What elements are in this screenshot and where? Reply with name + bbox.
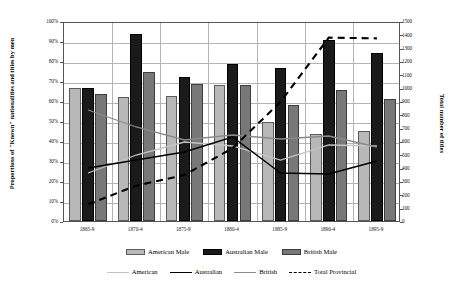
legend-swatch-total-icon bbox=[289, 269, 311, 275]
legend-label: American Male bbox=[148, 248, 189, 255]
y-axis-right-tick-label: 1100 bbox=[402, 73, 432, 78]
chart-container: Proportions of "Known" nationalities and… bbox=[0, 0, 463, 288]
y-axis-left-tick-label: 10% bbox=[30, 199, 58, 204]
y-axis-title-right: Total number of titles bbox=[439, 34, 446, 214]
y-axis-right-tick-label: 0 bbox=[402, 219, 432, 224]
legend-label: British Male bbox=[304, 248, 337, 255]
x-axis-tick-label: 1895-9 bbox=[346, 226, 406, 232]
legend-swatch-australian-icon bbox=[170, 269, 192, 275]
y-axis-right-tick-label: 100 bbox=[402, 206, 432, 211]
y-axis-left-tick-label: 30% bbox=[30, 159, 58, 164]
y-axis-right-tick-label: 800 bbox=[402, 113, 432, 118]
legend-item[interactable]: American bbox=[107, 268, 158, 275]
legend-label: Australian bbox=[195, 268, 222, 275]
legend-swatch-british-icon bbox=[234, 269, 256, 275]
legend-label: Australian Male bbox=[225, 248, 268, 255]
line-australian bbox=[88, 137, 377, 174]
y-axis-right-tick-label: 200 bbox=[402, 193, 432, 198]
y-axis-left-tick-mark bbox=[60, 222, 63, 223]
y-axis-left-tick-label: 40% bbox=[30, 139, 58, 144]
legend-label: American bbox=[132, 268, 158, 275]
legend-item[interactable]: Australian bbox=[170, 268, 222, 275]
y-axis-right-tick-label: 300 bbox=[402, 179, 432, 184]
y-axis-right-tick-label: 900 bbox=[402, 99, 432, 104]
legend-bar-series: American MaleAustralian MaleBritish Male bbox=[0, 248, 463, 255]
line-british bbox=[88, 110, 377, 147]
line-american bbox=[88, 142, 377, 173]
lines-layer bbox=[64, 23, 401, 223]
y-axis-left-tick-label: 70% bbox=[30, 79, 58, 84]
y-axis-left-tick-label: 80% bbox=[30, 59, 58, 64]
y-axis-right-tick-label: 600 bbox=[402, 139, 432, 144]
line-total-provincial bbox=[88, 38, 377, 205]
y-axis-left-tick-label: 60% bbox=[30, 99, 58, 104]
y-axis-left-tick-label: 90% bbox=[30, 39, 58, 44]
y-axis-left-tick-label: 100% bbox=[30, 19, 58, 24]
y-axis-right-tick-label: 1400 bbox=[402, 33, 432, 38]
legend-swatch-american-icon bbox=[126, 249, 145, 255]
y-axis-left-tick-label: 20% bbox=[30, 179, 58, 184]
plot-area bbox=[63, 22, 400, 222]
legend-item[interactable]: British bbox=[234, 268, 277, 275]
y-axis-right-tick-label: 1200 bbox=[402, 59, 432, 64]
legend-item[interactable]: Total Provincial bbox=[289, 268, 356, 275]
y-axis-right-tick-label: 500 bbox=[402, 153, 432, 158]
y-axis-title-left: Proportions of "Known" nationalities and… bbox=[8, 24, 15, 204]
legend-item[interactable]: American Male bbox=[126, 248, 189, 255]
y-axis-right-tick-label: 400 bbox=[402, 166, 432, 171]
y-axis-right-tick-label: 1000 bbox=[402, 86, 432, 91]
legend-line-series: AmericanAustralianBritishTotal Provincia… bbox=[0, 268, 463, 275]
y-axis-left-tick-label: 0% bbox=[30, 219, 58, 224]
legend-swatch-american-icon bbox=[107, 269, 129, 275]
y-axis-right-tick-label: 1300 bbox=[402, 46, 432, 51]
y-axis-right-tick-label: 1500 bbox=[402, 19, 432, 24]
legend-label: British bbox=[259, 268, 277, 275]
legend-item[interactable]: Australian Male bbox=[203, 248, 268, 255]
legend-swatch-british-icon bbox=[282, 249, 301, 255]
y-axis-right-tick-label: 700 bbox=[402, 126, 432, 131]
legend-label: Total Provincial bbox=[314, 268, 356, 275]
legend-item[interactable]: British Male bbox=[282, 248, 337, 255]
y-axis-left-tick-label: 50% bbox=[30, 119, 58, 124]
legend-swatch-australian-icon bbox=[203, 249, 222, 255]
